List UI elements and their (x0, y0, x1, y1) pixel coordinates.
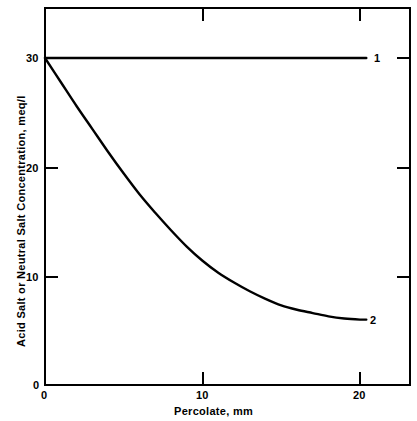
curve-2-label: 2 (370, 314, 376, 326)
y-tick-label-10: 10 (26, 271, 39, 283)
data-curve-2 (45, 58, 366, 320)
y-tick-label-30: 30 (26, 52, 39, 64)
curve-1-label: 1 (374, 52, 380, 64)
y-axis-ticks-right (397, 58, 410, 277)
x-axis-title: Percolate, mm (174, 405, 253, 417)
y-tick-label-0: 0 (33, 379, 39, 391)
chart-figure: 0 10 20 0 10 20 30 Percolate, mm Acid Sa… (0, 0, 417, 421)
plot-area (0, 0, 417, 421)
y-tick-label-20: 20 (26, 162, 39, 174)
x-tick-label-0: 0 (41, 389, 47, 401)
y-axis-title: Acid Salt or Neutral Salt Concentration,… (15, 95, 27, 347)
x-axis-ticks (203, 372, 360, 385)
x-tick-label-20: 20 (353, 389, 366, 401)
y-axis-ticks (45, 58, 58, 277)
x-axis-ticks-top (203, 8, 360, 21)
data-series-group (45, 58, 366, 320)
axes-frame (45, 8, 410, 385)
x-tick-label-10: 10 (196, 389, 209, 401)
